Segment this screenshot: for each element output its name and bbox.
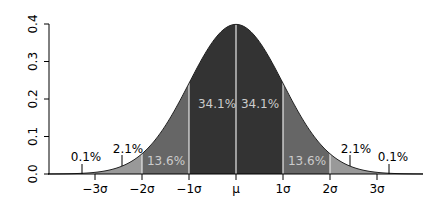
region-1-2-left bbox=[142, 0, 189, 174]
x-ticks bbox=[95, 174, 377, 180]
x-tick-label: −1σ bbox=[176, 182, 202, 196]
x-tick-label: 3σ bbox=[369, 182, 385, 196]
region-tail-right bbox=[377, 0, 424, 174]
label-0-1-left: 0.1% bbox=[71, 150, 102, 164]
region-tail-left bbox=[48, 0, 95, 174]
x-tick-label: 2σ bbox=[322, 182, 338, 196]
x-tick-label: −3σ bbox=[82, 182, 108, 196]
label-34-right: 34.1% bbox=[241, 97, 279, 111]
y-ticks bbox=[44, 24, 49, 174]
label-2-right: 2.1% bbox=[341, 142, 372, 156]
label-13-left: 13.6% bbox=[147, 154, 185, 168]
x-tick-label: μ bbox=[232, 182, 240, 196]
y-tick-label: 0.2 bbox=[26, 89, 40, 108]
normal-distribution-chart: 0.0 0.1 0.2 0.3 0.4 −3σ −2σ −1σ μ 1σ 2σ … bbox=[0, 0, 443, 209]
region-1-2-right bbox=[283, 0, 330, 174]
y-tick-label: 0.3 bbox=[26, 52, 40, 71]
x-tick-label: −2σ bbox=[129, 182, 155, 196]
label-13-right: 13.6% bbox=[288, 154, 326, 168]
y-tick-label: 0.4 bbox=[26, 14, 40, 33]
label-2-left: 2.1% bbox=[113, 142, 144, 156]
y-tick-label: 0.0 bbox=[26, 164, 40, 183]
label-0-1-right: 0.1% bbox=[378, 150, 409, 164]
label-34-left: 34.1% bbox=[198, 97, 236, 111]
y-tick-label: 0.1 bbox=[26, 127, 40, 146]
x-tick-label: 1σ bbox=[275, 182, 291, 196]
